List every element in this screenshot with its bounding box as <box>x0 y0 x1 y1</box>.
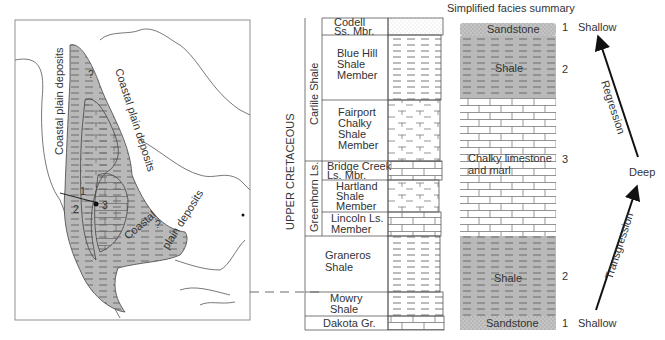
label-shallow-top: Shallow <box>578 21 617 33</box>
label-deep: Deep <box>629 166 655 178</box>
label-transgression: Transgression <box>602 211 635 281</box>
unit-graneros-2: Shale <box>325 261 353 273</box>
facies-label-shale-top: Shale <box>495 62 523 74</box>
cycle-diagram: Shallow Deep Shallow Regression Transgre… <box>578 21 655 329</box>
label-point-2: 2 <box>73 203 79 215</box>
label-question-south: ? <box>155 218 161 230</box>
unit-fairport-4: Member <box>338 139 379 151</box>
label-point-1: 1 <box>80 185 86 197</box>
stratigraphic-table: UPPER CRETACEOUS Carlile Shale Greenhorn… <box>284 16 444 330</box>
label-regression: Regression <box>599 79 628 136</box>
label-question-north: ? <box>88 68 94 80</box>
lithology-column <box>388 18 444 330</box>
unit-graneros: Graneros <box>325 249 371 261</box>
facies-label-chalky: Chalky limestone <box>468 152 552 164</box>
facies-label-chalky-2: and marl <box>468 164 511 176</box>
facies-number-3: 3 <box>562 153 568 165</box>
map-frame <box>15 20 250 320</box>
formation-carlile: Carlile Shale <box>308 63 320 125</box>
facies-title: Simplified facies summary <box>447 2 575 14</box>
unit-mowry-2: Shale <box>330 303 358 315</box>
facies-summary: Simplified facies summary Sandstone Shal… <box>447 2 575 330</box>
facies-label-sandstone-bottom: Sandstone <box>486 317 539 329</box>
paleogeographic-map: Coastal plain deposits Coastal plain dep… <box>15 20 250 320</box>
label-coastal-west: Coastal plain deposits <box>53 47 65 155</box>
unit-codell-2: Ss. Mbr. <box>334 25 374 37</box>
diagram-canvas: Coastal plain deposits Coastal plain dep… <box>0 0 665 340</box>
facies-number-1-bottom: 1 <box>562 317 568 329</box>
era-label: UPPER CRETACEOUS <box>284 113 296 230</box>
facies-label-shale-bottom: Shale <box>494 272 522 284</box>
unit-hartland-3: Member <box>336 200 377 212</box>
unit-dakota: Dakota Gr. <box>323 317 376 329</box>
facies-label-sandstone-top: Sandstone <box>487 23 540 35</box>
unit-lincoln-2: Member <box>331 223 372 235</box>
formation-greenhorn: Greenhorn Ls. <box>308 162 320 232</box>
label-point-3: 3 <box>102 199 108 211</box>
facies-number-2-bottom: 2 <box>562 270 568 282</box>
facies-number-1-top: 1 <box>562 21 568 33</box>
stray-dot <box>242 214 245 217</box>
label-shallow-bottom: Shallow <box>578 317 617 329</box>
facies-number-2-top: 2 <box>562 63 568 75</box>
unit-blue-hill-3: Member <box>337 69 378 81</box>
location-point-3 <box>94 202 99 207</box>
unit-labels: Codell Ss. Mbr. Blue Hill Shale Member F… <box>323 16 392 329</box>
